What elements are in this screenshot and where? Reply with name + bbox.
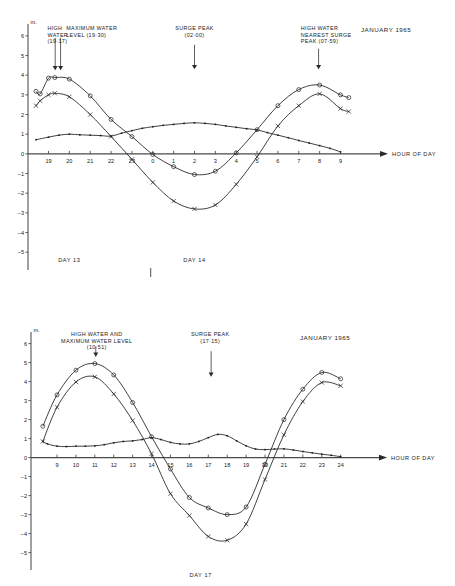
data-point-dot xyxy=(131,130,133,132)
data-point-dot xyxy=(235,127,237,129)
y-tick-label: 1 xyxy=(24,436,27,442)
day-label: DAY 13 xyxy=(58,257,80,263)
data-point-dot xyxy=(173,124,175,126)
data-point-dot xyxy=(121,132,123,134)
x-tick-label: 24 xyxy=(338,462,344,468)
x-tick-label: 11 xyxy=(92,462,98,468)
data-point-cross xyxy=(38,99,42,103)
y-tick-label: 5 xyxy=(24,360,27,366)
data-point-cross xyxy=(301,399,305,403)
data-point-dot xyxy=(141,439,143,441)
data-point-cross xyxy=(34,104,38,108)
y-tick-label: –1 xyxy=(21,474,27,480)
data-point-cross xyxy=(187,513,191,517)
data-point-dot xyxy=(42,441,44,443)
data-point-cross xyxy=(131,418,135,422)
data-point-dot xyxy=(298,140,300,142)
data-point-cross xyxy=(46,93,50,97)
data-point-dot xyxy=(94,445,96,447)
annotation-line: (17·15) xyxy=(200,338,220,344)
annotation-maximum-water-level: MAXIMUM WATERLEVEL (19·30) xyxy=(58,25,117,70)
y-tick-label: 4 xyxy=(24,379,27,385)
series-line-surge-residual xyxy=(36,123,340,152)
data-point-cross xyxy=(151,180,155,184)
data-point-cross xyxy=(297,104,301,108)
data-point-dot xyxy=(152,126,154,128)
data-point-cross xyxy=(172,199,176,203)
data-point-dot xyxy=(48,136,50,138)
data-point-dot xyxy=(194,122,196,124)
x-tick-label: 19 xyxy=(45,158,51,164)
data-point-cross xyxy=(206,534,210,538)
data-point-dot xyxy=(170,442,172,444)
x-tick-label: 8 xyxy=(318,158,321,164)
data-point-dot xyxy=(56,445,58,447)
x-tick-label: 22 xyxy=(300,462,306,468)
annotation-line: (10·51) xyxy=(87,344,107,350)
series-line-surge-residual xyxy=(43,434,341,456)
y-tick-label: 3 xyxy=(24,398,27,404)
data-point-cross xyxy=(234,182,238,186)
data-point-cross xyxy=(244,522,248,526)
chart-svg-top: m.6543210–1–2–3–4–5HOUR OF DAY1920212223… xyxy=(0,0,455,292)
x-tick-label: 4 xyxy=(235,158,238,164)
data-point-dot xyxy=(142,128,144,130)
series-line-predicted-tide xyxy=(36,93,349,209)
data-point-dot xyxy=(302,451,304,453)
x-tick-label: 23 xyxy=(319,462,325,468)
data-point-cross xyxy=(276,124,280,128)
data-point-dot xyxy=(340,151,342,153)
data-point-dot xyxy=(236,440,238,442)
data-point-dot xyxy=(85,445,87,447)
data-point-dot xyxy=(113,442,115,444)
annotation-arrowhead xyxy=(316,65,321,69)
data-point-dot xyxy=(293,449,295,451)
x-tick-label: 10 xyxy=(73,462,79,468)
y-tick-label: –2 xyxy=(21,493,27,499)
chart-title: JANUARY 1965 xyxy=(361,26,411,33)
annotation-line: (19·17) xyxy=(47,38,67,44)
x-tick-label: 13 xyxy=(130,462,136,468)
annotation-line: HIGH WATER AND xyxy=(71,331,122,337)
y-tick-label: 2 xyxy=(24,417,27,423)
data-point-cross xyxy=(168,492,172,496)
y-tick-label: –5 xyxy=(21,550,27,556)
data-point-dot xyxy=(217,434,219,436)
series-observed-water-level xyxy=(41,362,343,517)
x-axis-label: HOUR OF DAY xyxy=(391,455,435,461)
annotation-line: HIGH WATER xyxy=(301,25,338,31)
x-tick-label: 1 xyxy=(172,158,175,164)
data-point-dot xyxy=(277,134,279,136)
data-point-cross xyxy=(213,203,217,207)
data-point-cross xyxy=(88,112,92,116)
data-point-dot xyxy=(69,133,71,135)
data-point-cross xyxy=(338,107,342,111)
x-tick-label: 9 xyxy=(339,158,342,164)
annotation-high-water-nearest-surge-peak: HIGH WATERNEAREST SURGEPEAK (07·59) xyxy=(301,25,352,69)
data-point-dot xyxy=(204,123,206,125)
data-point-dot xyxy=(245,445,247,447)
data-point-dot xyxy=(319,145,321,147)
x-tick-label: 5 xyxy=(256,158,259,164)
y-tick-label: –3 xyxy=(18,210,24,216)
data-point-dot xyxy=(330,455,332,457)
series-predicted-tide xyxy=(34,91,351,211)
annotation-line: HIGH xyxy=(47,25,62,31)
data-point-dot xyxy=(225,125,227,127)
data-point-cross xyxy=(55,405,59,409)
annotation-line: MAXIMUM WATER LEVEL xyxy=(61,338,132,344)
data-point-dot xyxy=(35,139,37,141)
data-point-dot xyxy=(288,137,290,139)
x-tick-label: 0 xyxy=(151,158,154,164)
data-point-dot xyxy=(215,124,217,126)
data-point-dot xyxy=(179,443,181,445)
tidal-chart-day17: m.6543210–1–2–3–4–5HOUR OF DAY9101112131… xyxy=(0,292,455,586)
x-axis-arrowhead xyxy=(379,455,387,461)
data-point-dot xyxy=(308,142,310,144)
y-tick-label: 0 xyxy=(24,455,27,461)
y-tick-label: –4 xyxy=(18,230,24,236)
x-tick-label: 21 xyxy=(281,462,287,468)
data-point-dot xyxy=(274,448,276,450)
data-point-dot xyxy=(256,129,258,131)
x-tick-label: 9 xyxy=(55,462,58,468)
